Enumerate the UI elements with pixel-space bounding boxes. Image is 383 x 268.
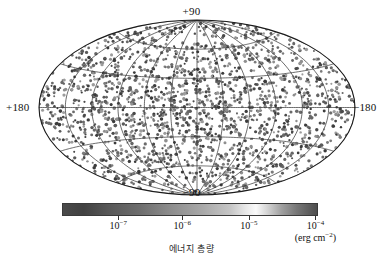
burst-marker xyxy=(276,100,279,103)
axis-label-longitude-right: −180 xyxy=(353,101,377,113)
burst-marker xyxy=(297,152,300,155)
burst-marker xyxy=(79,128,82,131)
burst-marker xyxy=(51,101,54,104)
burst-marker xyxy=(166,121,168,123)
burst-marker xyxy=(85,59,88,62)
burst-marker xyxy=(278,126,281,129)
burst-marker xyxy=(314,113,317,116)
burst-marker xyxy=(152,118,154,120)
burst-marker xyxy=(59,87,61,89)
burst-marker xyxy=(302,140,305,143)
burst-marker xyxy=(255,52,258,55)
burst-marker xyxy=(199,171,202,174)
burst-marker xyxy=(223,128,226,131)
burst-marker xyxy=(125,113,129,117)
burst-marker xyxy=(155,64,157,66)
burst-marker xyxy=(164,113,167,116)
burst-marker xyxy=(112,40,115,43)
burst-marker xyxy=(322,100,325,103)
burst-marker xyxy=(174,114,177,117)
burst-marker xyxy=(214,66,216,68)
burst-marker xyxy=(231,152,234,155)
burst-marker xyxy=(154,88,157,91)
burst-marker xyxy=(280,135,283,138)
burst-marker xyxy=(322,122,325,125)
burst-marker xyxy=(289,134,291,136)
burst-marker xyxy=(336,81,338,83)
burst-marker xyxy=(53,85,56,88)
burst-marker xyxy=(116,154,120,158)
burst-marker xyxy=(163,158,166,161)
burst-marker xyxy=(51,82,54,85)
burst-marker xyxy=(211,105,213,107)
burst-marker xyxy=(195,171,198,174)
burst-marker xyxy=(182,97,185,100)
burst-marker xyxy=(198,26,200,28)
burst-marker xyxy=(274,36,276,38)
burst-marker xyxy=(211,148,215,152)
burst-marker xyxy=(105,149,108,152)
burst-marker xyxy=(105,75,108,78)
burst-marker xyxy=(111,65,113,67)
burst-marker xyxy=(272,61,275,64)
burst-marker xyxy=(283,122,286,125)
burst-marker xyxy=(117,46,120,49)
burst-marker xyxy=(348,95,351,98)
burst-marker xyxy=(117,72,119,74)
burst-marker xyxy=(110,171,113,174)
burst-marker xyxy=(172,113,174,115)
burst-marker xyxy=(112,106,116,110)
burst-marker xyxy=(321,156,324,159)
burst-marker xyxy=(226,119,228,121)
burst-marker xyxy=(237,52,240,55)
burst-marker xyxy=(198,154,201,157)
burst-marker xyxy=(120,152,123,155)
burst-marker xyxy=(242,113,245,116)
burst-marker xyxy=(256,98,259,101)
burst-marker xyxy=(179,65,182,68)
burst-marker xyxy=(181,124,184,127)
burst-marker xyxy=(114,124,118,128)
burst-marker xyxy=(93,75,95,77)
burst-marker xyxy=(114,71,117,74)
burst-marker xyxy=(160,111,163,114)
burst-marker xyxy=(115,175,118,178)
burst-marker xyxy=(87,47,90,50)
burst-marker xyxy=(215,93,217,95)
burst-marker xyxy=(81,59,84,62)
burst-marker xyxy=(181,68,184,71)
burst-marker xyxy=(256,119,258,121)
burst-marker xyxy=(215,35,217,37)
burst-marker xyxy=(290,46,293,49)
burst-marker xyxy=(221,72,224,75)
burst-marker xyxy=(321,92,324,95)
burst-marker xyxy=(198,121,200,123)
burst-marker xyxy=(224,155,227,158)
burst-marker xyxy=(307,159,310,162)
burst-marker xyxy=(319,121,322,124)
burst-marker xyxy=(112,117,114,119)
burst-marker xyxy=(46,103,50,107)
burst-marker xyxy=(116,64,119,67)
burst-marker xyxy=(158,115,161,118)
burst-marker xyxy=(164,144,166,146)
burst-marker xyxy=(261,91,264,94)
burst-marker xyxy=(264,159,267,162)
burst-marker xyxy=(236,112,238,114)
burst-marker xyxy=(223,65,226,68)
burst-marker xyxy=(87,62,90,65)
burst-marker xyxy=(315,128,318,131)
burst-marker xyxy=(266,83,269,86)
burst-marker xyxy=(206,181,209,184)
burst-marker xyxy=(243,116,246,119)
burst-marker xyxy=(142,124,145,127)
burst-marker xyxy=(257,78,260,81)
burst-marker xyxy=(43,99,46,102)
burst-marker xyxy=(233,94,236,97)
aitoff-projection-plot xyxy=(0,0,383,205)
burst-marker xyxy=(224,100,228,104)
burst-marker xyxy=(304,133,307,136)
burst-marker xyxy=(274,104,277,107)
burst-marker xyxy=(188,129,191,132)
burst-marker xyxy=(217,153,220,156)
